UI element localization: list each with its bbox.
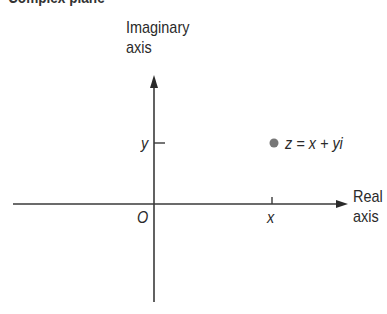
- point-z-label: z = x + yi: [285, 134, 343, 153]
- real-axis-label-line1: Real: [353, 187, 383, 206]
- x-tick-label: x: [267, 208, 274, 227]
- y-tick-label: y: [141, 134, 148, 153]
- imaginary-axis-arrow-icon: [150, 75, 158, 88]
- imaginary-axis-label-line1: Imaginary: [126, 18, 189, 37]
- real-axis-arrow-icon: [336, 200, 348, 208]
- origin-label: O: [137, 208, 148, 227]
- point-z-marker: [270, 139, 279, 148]
- imaginary-axis-label-line2: axis: [126, 38, 152, 57]
- real-axis-label-line2: axis: [353, 207, 379, 226]
- complex-plane-axes: [0, 0, 387, 314]
